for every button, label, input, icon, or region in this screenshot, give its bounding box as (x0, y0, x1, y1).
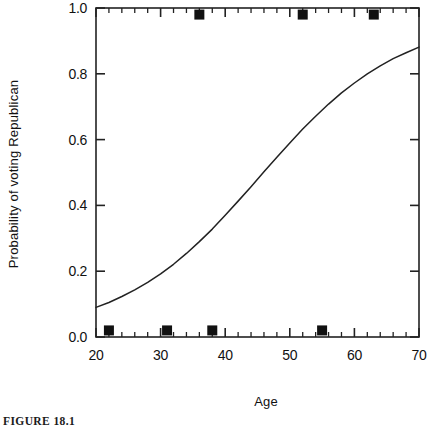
y-tick-label: 0.8 (68, 66, 87, 82)
x-tick-label: 50 (282, 347, 297, 363)
y-tick-label: 0.0 (68, 329, 87, 345)
data-point-marker (369, 10, 379, 20)
x-tick-label: 40 (218, 347, 233, 363)
data-point-marker (104, 325, 114, 335)
data-point-marker (317, 325, 327, 335)
data-point-marker (207, 325, 217, 335)
data-point-marker (194, 10, 204, 20)
y-tick-label: 0.6 (68, 132, 87, 148)
y-tick-label: 0.4 (68, 197, 87, 213)
data-point-marker (162, 325, 172, 335)
y-tick-label: 0.2 (68, 263, 87, 279)
data-point-marker (298, 10, 308, 20)
x-tick-label: 30 (153, 347, 168, 363)
chart-background (0, 0, 432, 429)
logistic-regression-chart: 203040506070 0.00.20.40.60.81.0 Age Prob… (0, 0, 432, 429)
figure-caption: FIGURE 18.1 (3, 415, 75, 427)
y-axis-title: Probability of voting Republican (6, 80, 21, 269)
x-tick-label: 60 (347, 347, 362, 363)
y-tick-label: 1.0 (68, 0, 87, 16)
figure-container: 203040506070 0.00.20.40.60.81.0 Age Prob… (0, 0, 432, 429)
x-tick-label: 70 (412, 347, 427, 363)
x-axis-title: Age (254, 394, 278, 409)
x-tick-label: 20 (89, 347, 104, 363)
